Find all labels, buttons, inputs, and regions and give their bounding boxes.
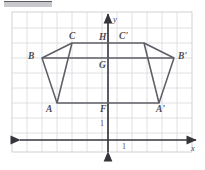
vertex-label-B-prime: B' <box>178 52 187 62</box>
vertex-label-G: G <box>99 61 106 71</box>
vertex-label-C-prime: C' <box>119 32 128 42</box>
vertex-label-C: C <box>69 32 75 42</box>
geometry-figure: A B C H G F A' B' C' y x 1 1 <box>0 0 205 170</box>
vertex-label-B: B <box>28 52 34 62</box>
y-unit-tick-label: 1 <box>100 120 104 128</box>
vertex-label-A-prime: A' <box>156 105 165 115</box>
coordinate-plane <box>0 0 205 170</box>
y-axis-label: y <box>113 15 117 24</box>
vertex-label-A: A <box>46 105 52 115</box>
vertex-label-H: H <box>99 33 106 43</box>
vertex-label-F: F <box>100 105 106 115</box>
x-unit-tick-label: 1 <box>122 143 126 151</box>
x-axis-label: x <box>191 144 195 153</box>
